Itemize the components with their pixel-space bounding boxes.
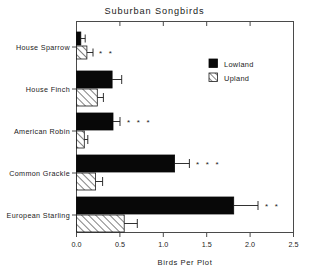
chart-title: Suburban Songbirds [105,6,205,16]
chart-container: Suburban Songbirds 0.0 0.5 1. [0,0,309,271]
category-label: House Sparrow [16,43,71,52]
bar-upland [77,131,85,148]
x-tick-label: 0.5 [115,240,125,249]
x-tick-label: 1.0 [158,240,168,249]
legend-swatch-lowland [209,59,218,68]
bar-lowland [77,71,113,88]
bar-upland [77,173,96,190]
x-tick-label: 2.0 [245,240,255,249]
bar-upland [77,215,125,232]
x-tick-label: 2.5 [289,240,299,249]
x-tick-label: 0.0 [72,240,82,249]
bar-upland [77,89,98,106]
legend-swatch-upland [209,73,218,82]
x-tick-label: 1.5 [202,240,212,249]
category-label: European Starling [7,211,71,220]
category-label: Common Grackle [9,169,70,178]
category-label: House Finch [26,85,70,94]
bar-upland [77,46,87,59]
bar-lowland [77,32,81,45]
significance-mark: * * [99,49,114,58]
significance-mark: * * [265,202,280,211]
bar-lowland [77,197,234,214]
bar-lowland [77,155,175,172]
category-label: American Robin [14,127,70,136]
significance-mark: * * * [196,160,221,169]
legend-label-lowland: Lowland [224,60,254,69]
x-axis-title: Birds Per Plot [158,258,213,267]
songbirds-bar-chart: Suburban Songbirds 0.0 0.5 1. [0,0,309,271]
significance-mark: * * * [127,118,152,127]
legend-label-upland: Upland [224,74,249,83]
bar-lowland [77,113,114,130]
